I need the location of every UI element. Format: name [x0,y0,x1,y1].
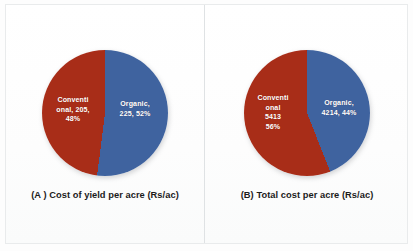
panel-a: Conventi onal, 205, 48% Organic, 225, 52… [5,4,205,244]
pie-chart-b: Conventi onal 5413 56% Organic, 4214, 44… [244,50,370,176]
slice-label-conventional-b: Conventi onal 5413 56% [248,94,298,132]
panel-b: Conventi onal 5413 56% Organic, 4214, 44… [207,4,407,244]
slice-label-organic-b: Organic, 4214, 44% [312,99,366,118]
slice-label-organic-a: Organic, 225, 52% [109,100,161,119]
pie-chart-b-wrapper: Conventi onal 5413 56% Organic, 4214, 44… [207,50,407,180]
caption-a: (A ) Cost of yield per acre (Rs/ac) [5,190,205,200]
slice-label-conventional-a: Conventi onal, 205, 48% [47,96,99,125]
figure-container: Conventi onal, 205, 48% Organic, 225, 52… [0,0,413,251]
caption-b: (B) Total cost per acre (Rs/ac) [207,190,407,200]
pie-chart-a-wrapper: Conventi onal, 205, 48% Organic, 225, 52… [5,50,205,180]
pie-chart-a: Conventi onal, 205, 48% Organic, 225, 52… [42,50,168,176]
